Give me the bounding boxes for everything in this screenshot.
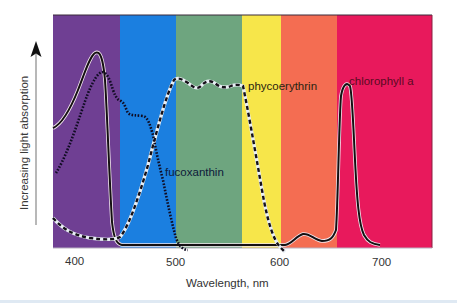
plot-area [53,15,432,252]
x-axis-label: Wavelength, nm [186,277,269,289]
band-green [176,15,242,248]
absorption-spectrum-chart: chlorophyll a phycoerythrin fucoxanthin … [0,0,457,303]
label-chlorophyll-a: chlorophyll a [349,75,414,87]
band-orange [281,15,337,248]
band-blue [120,15,176,248]
x-tick-400: 400 [65,255,84,267]
label-phycoerythrin: phycoerythrin [248,80,317,92]
x-tick-500: 500 [166,256,185,268]
band-yellow [242,15,281,248]
label-fucoxanthin: fucoxanthin [165,166,224,178]
band-red [337,15,432,248]
x-tick-600: 600 [270,256,289,268]
y-axis-label: Increasing light absorption [18,76,30,210]
x-tick-700: 700 [372,256,391,268]
